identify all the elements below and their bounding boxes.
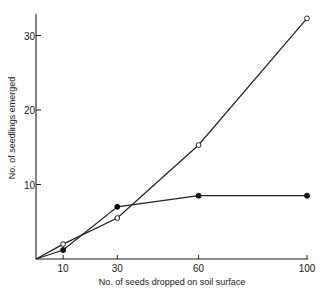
open-circle-marker [115,216,120,221]
x-tick-label: 30 [112,263,124,274]
open-circle-marker [196,143,201,148]
series-open-circles [36,16,309,259]
filled-circle-marker [305,193,310,198]
data-series [36,16,310,259]
y-axis-title: No. of seedlings emerged [7,77,17,180]
axes [36,14,308,259]
open-circle-marker [305,16,310,21]
y-tick-label: 30 [24,31,36,42]
series-line [36,18,307,259]
line-chart: 103060100 102030 No. of seeds dropped on… [0,0,323,293]
series-filled-circles [36,193,310,259]
y-tick-label: 10 [24,180,36,191]
x-tick-label: 10 [58,263,70,274]
filled-circle-marker [115,204,120,209]
x-tick-label: 60 [193,263,205,274]
x-tick-label: 100 [299,263,316,274]
x-ticks: 103060100 [58,255,316,274]
y-tick-label: 20 [24,105,36,116]
filled-circle-marker [196,193,201,198]
open-circle-marker [61,242,66,247]
y-ticks: 102030 [24,31,41,191]
series-line [36,196,307,259]
x-axis-title: No. of seeds dropped on soil surface [99,277,246,287]
filled-circle-marker [61,248,66,253]
